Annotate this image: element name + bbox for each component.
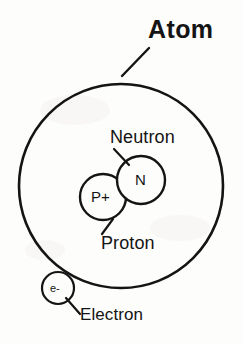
electron-label: Electron bbox=[80, 306, 143, 323]
page-title: Atom bbox=[148, 17, 213, 42]
atom-leader-line bbox=[122, 48, 149, 76]
neutron-leader-line bbox=[114, 149, 129, 165]
atom-diagram-vector bbox=[0, 0, 243, 344]
electron-symbol: e- bbox=[50, 283, 60, 294]
atom-diagram-canvas: Atom Neutron Proton Electron P+ N e- bbox=[0, 0, 243, 344]
neutron-symbol: N bbox=[135, 172, 146, 187]
neutron-label: Neutron bbox=[110, 128, 175, 146]
proton-leader-line bbox=[102, 219, 113, 234]
proton-label: Proton bbox=[101, 234, 155, 252]
proton-symbol: P+ bbox=[91, 189, 110, 204]
electron-leader-line bbox=[66, 298, 80, 314]
